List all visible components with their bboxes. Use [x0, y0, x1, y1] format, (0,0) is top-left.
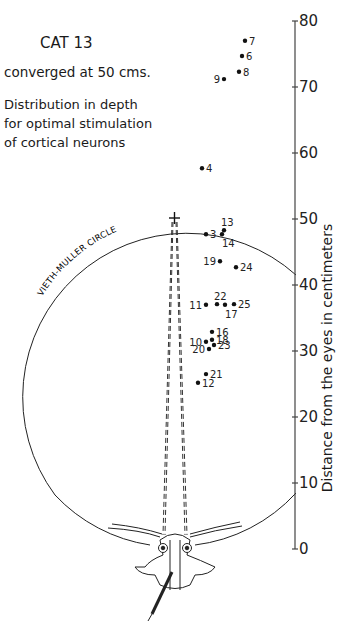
svg-text:60: 60 [299, 144, 318, 162]
data-point [232, 302, 236, 306]
svg-text:50: 50 [299, 210, 318, 228]
svg-text:10: 10 [299, 474, 318, 492]
data-point [204, 372, 208, 376]
data-point [222, 77, 226, 81]
data-point [240, 54, 244, 58]
data-point [204, 232, 208, 236]
point-label: 22 [214, 291, 227, 302]
data-point [210, 330, 214, 334]
data-point [222, 228, 226, 232]
point-label: 19 [203, 256, 216, 267]
svg-text:40: 40 [299, 276, 318, 294]
point-label: 7 [249, 36, 255, 47]
point-label: 24 [240, 262, 253, 273]
plot-area: VIETH-MULLER CIRCLE 01020304050607080 76… [0, 0, 356, 621]
point-label: 20 [192, 344, 205, 355]
svg-text:70: 70 [299, 78, 318, 96]
data-point [204, 303, 208, 307]
data-point [237, 70, 241, 74]
svg-text:20: 20 [299, 408, 318, 426]
data-point [243, 39, 247, 43]
point-label: 25 [238, 299, 251, 310]
svg-text:80: 80 [299, 12, 318, 30]
data-point [200, 166, 204, 170]
data-point [215, 302, 219, 306]
point-label: 9 [214, 74, 220, 85]
y-axis-label: Distance from the eyes in centimeters [319, 224, 335, 493]
data-point [220, 232, 224, 236]
data-point [234, 265, 238, 269]
point-label: 23 [218, 340, 231, 351]
svg-text:30: 30 [299, 342, 318, 360]
vieth-muller-circle [23, 233, 296, 495]
y-axis [292, 21, 298, 549]
point-label: 17 [225, 309, 238, 320]
point-label: 4 [206, 163, 212, 174]
point-label: 8 [243, 67, 249, 78]
cat-head-illustration [108, 522, 242, 621]
point-label: 12 [202, 378, 215, 389]
data-point [207, 347, 211, 351]
data-point [218, 259, 222, 263]
point-label: 13 [221, 217, 234, 228]
svg-text:0: 0 [299, 540, 309, 558]
circle-label: VIETH-MULLER CIRCLE [35, 224, 118, 298]
point-label: 6 [246, 51, 252, 62]
fixation-cross [169, 212, 180, 224]
y-tick-labels: 01020304050607080 [299, 12, 318, 558]
visual-axes [163, 222, 187, 535]
data-point [210, 338, 214, 342]
data-point [223, 303, 227, 307]
data-points: 768941314319241122172516181023202112 [189, 36, 255, 389]
data-point [196, 380, 200, 384]
point-label: 11 [189, 300, 202, 311]
point-label: 3 [210, 229, 216, 240]
point-label: 14 [222, 238, 235, 249]
data-point [212, 343, 216, 347]
